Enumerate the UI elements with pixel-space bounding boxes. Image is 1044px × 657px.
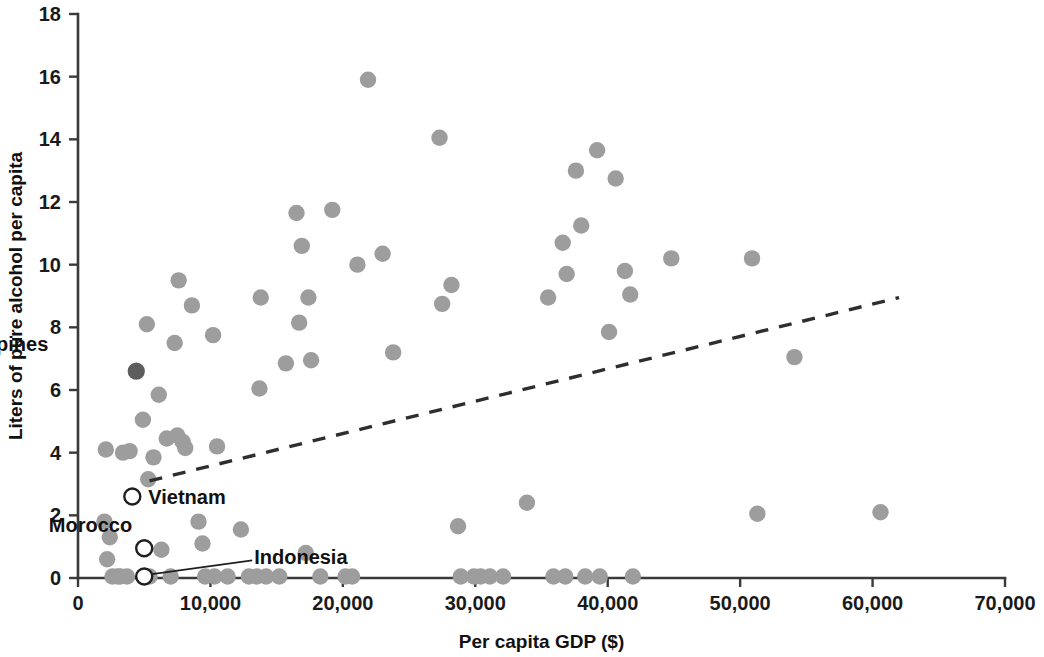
data-point — [557, 568, 573, 584]
highlighted-data-point — [128, 363, 145, 380]
y-tick-label: 10 — [39, 254, 61, 276]
data-point — [324, 202, 340, 218]
data-point — [617, 263, 633, 279]
x-tick-label: 20,000 — [312, 592, 373, 614]
y-tick-label: 14 — [39, 128, 62, 150]
data-point — [312, 568, 328, 584]
data-point — [519, 495, 535, 511]
x-tick-label: 60,000 — [842, 592, 903, 614]
data-point — [749, 506, 765, 522]
data-point — [786, 349, 802, 365]
data-point — [385, 344, 401, 360]
data-point — [554, 235, 570, 251]
x-axis-title: Per capita GDP ($) — [459, 631, 624, 652]
data-point — [344, 568, 360, 584]
data-point — [872, 504, 888, 520]
x-tick-label: 70,000 — [974, 592, 1035, 614]
data-point — [431, 130, 447, 146]
x-tick-label: 10,000 — [180, 592, 241, 614]
x-tick-label: 30,000 — [445, 592, 506, 614]
data-point — [166, 335, 182, 351]
x-tick-label: 40,000 — [577, 592, 638, 614]
data-point — [119, 568, 135, 584]
data-points — [96, 72, 888, 585]
data-point — [288, 205, 304, 221]
data-point — [349, 256, 365, 272]
y-tick-label: 6 — [50, 379, 61, 401]
y-axis: 024681012141618 — [39, 3, 78, 589]
data-point — [190, 513, 206, 529]
open-data-point — [136, 540, 152, 556]
data-point — [601, 324, 617, 340]
data-point — [374, 246, 390, 262]
data-point — [573, 217, 589, 233]
open-data-point — [136, 568, 152, 584]
data-point — [194, 535, 210, 551]
x-tick-label: 0 — [72, 592, 83, 614]
y-tick-label: 18 — [39, 3, 61, 25]
y-axis-title: Liters of pure alcohol per capita — [5, 151, 26, 440]
open-data-point — [124, 489, 140, 505]
data-point — [589, 142, 605, 158]
data-point — [253, 289, 269, 305]
data-point — [300, 289, 316, 305]
data-point — [121, 443, 137, 459]
data-point — [170, 272, 186, 288]
data-point — [233, 521, 249, 537]
y-tick-label: 12 — [39, 191, 61, 213]
annotation-label-indonesia: Indonesia — [254, 546, 348, 568]
data-point — [607, 170, 623, 186]
y-tick-label: 0 — [50, 567, 61, 589]
data-point — [495, 568, 511, 584]
data-point — [251, 380, 267, 396]
data-point — [625, 568, 641, 584]
data-point — [568, 162, 584, 178]
data-point — [98, 441, 114, 457]
data-point — [151, 387, 167, 403]
data-point — [622, 286, 638, 302]
data-point — [177, 440, 193, 456]
data-point — [145, 449, 161, 465]
data-point — [558, 266, 574, 282]
x-tick-label: 50,000 — [710, 592, 771, 614]
annotation-label-vietnam: Vietnam — [148, 486, 225, 508]
data-point — [291, 314, 307, 330]
data-point — [294, 238, 310, 254]
data-point — [540, 289, 556, 305]
data-point — [209, 438, 225, 454]
data-point — [184, 297, 200, 313]
data-point — [303, 352, 319, 368]
data-point — [744, 250, 760, 266]
data-point — [219, 568, 235, 584]
data-point — [278, 355, 294, 371]
data-point — [139, 316, 155, 332]
data-point — [592, 568, 608, 584]
data-point — [360, 72, 376, 88]
data-point — [99, 551, 115, 567]
plot-area: 024681012141618 010,00020,00030,00040,00… — [0, 0, 1044, 657]
y-tick-label: 8 — [50, 316, 61, 338]
data-point — [663, 250, 679, 266]
data-point — [434, 296, 450, 312]
annotation-label-morocco: Morocco — [49, 514, 132, 536]
data-point — [443, 277, 459, 293]
y-tick-label: 16 — [39, 66, 61, 88]
data-point — [135, 412, 151, 428]
data-point — [450, 518, 466, 534]
data-point — [271, 568, 287, 584]
y-tick-label: 4 — [50, 442, 62, 464]
scatter-chart: 024681012141618 010,00020,00030,00040,00… — [0, 0, 1044, 657]
data-point — [153, 542, 169, 558]
data-point — [577, 568, 593, 584]
data-point — [205, 327, 221, 343]
